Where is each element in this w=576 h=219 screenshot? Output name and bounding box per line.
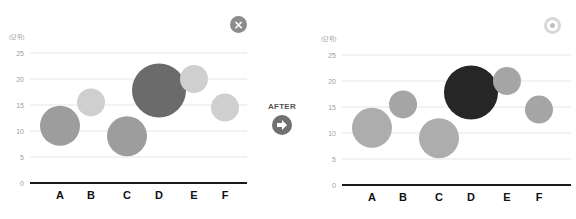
x-category-label: B bbox=[399, 191, 407, 203]
x-category-label: C bbox=[435, 191, 443, 203]
bubble-chart-after: 0510152025ABCDEF bbox=[312, 0, 576, 219]
x-category-label: A bbox=[56, 189, 64, 201]
x-category-label: D bbox=[155, 189, 163, 201]
bubble-chart-before: 0510152025ABCDEF bbox=[0, 0, 260, 219]
bubble-c bbox=[107, 116, 147, 156]
y-tick-label: 5 bbox=[20, 154, 24, 161]
bubble-e bbox=[493, 67, 521, 95]
bubble-d bbox=[444, 65, 498, 119]
y-tick-label: 5 bbox=[332, 156, 336, 163]
y-tick-label: 25 bbox=[16, 50, 24, 57]
bubble-b bbox=[389, 90, 417, 118]
bubble-c bbox=[419, 118, 459, 158]
transition-indicator: AFTER bbox=[262, 102, 302, 135]
x-category-label: D bbox=[467, 191, 475, 203]
bubble-f bbox=[211, 94, 239, 122]
bubble-d bbox=[132, 63, 186, 117]
y-tick-label: 0 bbox=[20, 180, 24, 187]
y-tick-label: 0 bbox=[332, 182, 336, 189]
x-category-label: F bbox=[222, 189, 229, 201]
x-category-label: B bbox=[87, 189, 95, 201]
chart-before: (단위) × 0510152025ABCDEF bbox=[0, 0, 260, 219]
bubble-a bbox=[352, 108, 392, 148]
arrow-right-circle-icon bbox=[272, 115, 292, 135]
chart-after: (단위) 0510152025ABCDEF bbox=[312, 0, 576, 219]
y-tick-label: 20 bbox=[328, 78, 336, 85]
x-category-label: E bbox=[503, 191, 510, 203]
y-tick-label: 20 bbox=[16, 76, 24, 83]
bubble-a bbox=[40, 106, 80, 146]
x-category-label: C bbox=[123, 189, 131, 201]
y-tick-label: 25 bbox=[328, 52, 336, 59]
x-category-label: A bbox=[368, 191, 376, 203]
y-tick-label: 15 bbox=[16, 102, 24, 109]
bubble-b bbox=[77, 88, 105, 116]
bubble-f bbox=[525, 96, 553, 124]
x-category-label: E bbox=[190, 189, 197, 201]
after-label: AFTER bbox=[262, 102, 302, 111]
y-tick-label: 10 bbox=[328, 130, 336, 137]
x-category-label: F bbox=[536, 191, 543, 203]
y-tick-label: 10 bbox=[16, 128, 24, 135]
y-tick-label: 15 bbox=[328, 104, 336, 111]
bubble-e bbox=[180, 65, 208, 93]
